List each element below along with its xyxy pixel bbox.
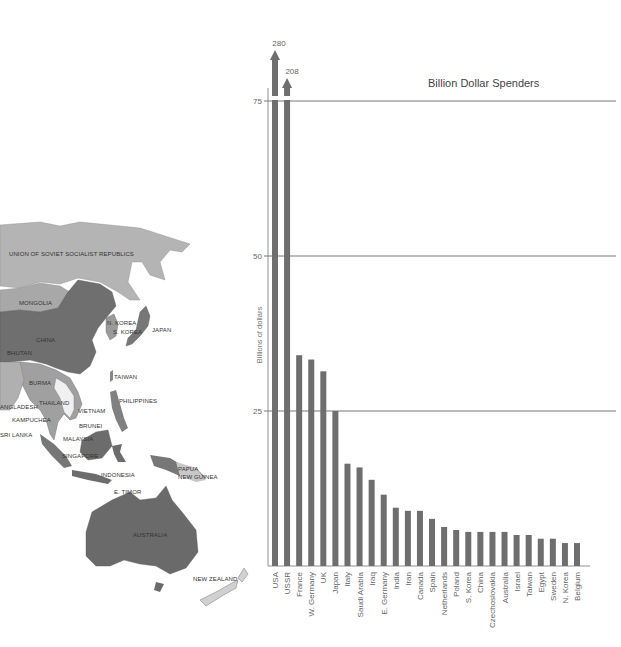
- x-tick-label: Japan: [331, 572, 340, 594]
- bar-czechoslovakia: [489, 532, 495, 566]
- bar-ussr: [284, 100, 290, 566]
- x-tick-label: S. Korea: [464, 571, 473, 603]
- x-tick-label: Iran: [404, 572, 413, 586]
- x-tick-label: Italy: [343, 572, 352, 587]
- arrow-up-icon: [270, 50, 280, 60]
- y-tick-label: 75: [253, 97, 262, 106]
- bar-s-korea: [465, 532, 471, 566]
- x-tick-label: Egypt: [537, 571, 546, 592]
- bar-belgium: [574, 543, 580, 566]
- x-tick-label: Poland: [452, 572, 461, 597]
- bar-italy: [344, 464, 350, 566]
- x-tick-label: Canada: [416, 571, 425, 600]
- bar-iran: [405, 511, 411, 566]
- bar-france: [296, 355, 302, 566]
- x-tick-label: W. Germany: [307, 572, 316, 616]
- x-tick-label: Saudi Arabia: [356, 571, 365, 617]
- bar-uk: [320, 371, 326, 566]
- x-tick-label: Netherlands: [440, 572, 449, 615]
- bar-china: [477, 532, 483, 566]
- x-tick-label: Sweden: [549, 572, 558, 601]
- x-tick-label: Czechoslovakia: [488, 571, 497, 628]
- bar-e-germany: [381, 495, 387, 566]
- x-tick-label: China: [476, 571, 485, 592]
- bar-japan: [332, 411, 338, 566]
- bar-poland: [453, 530, 459, 566]
- x-tick-label: USSR: [283, 572, 292, 594]
- bar-egypt: [538, 539, 544, 566]
- bar-usa: [272, 100, 278, 566]
- axis-break: [271, 96, 279, 99]
- x-tick-label: Spain: [428, 572, 437, 592]
- x-tick-label: Belgium: [573, 572, 582, 601]
- y-tick-label: 25: [253, 407, 262, 416]
- bar-saudi-arabia: [357, 467, 363, 566]
- x-tick-label: E. Germany: [380, 572, 389, 615]
- x-tick-label: Taiwan: [525, 572, 534, 597]
- bar-canada: [417, 511, 423, 566]
- x-tick-label: Australia: [501, 571, 510, 603]
- y-tick-label: 50: [253, 252, 262, 261]
- bar-n-korea: [562, 543, 568, 566]
- bar-chart: Billion Dollar Spenders Billions of doll…: [0, 0, 621, 647]
- axis-break: [283, 96, 291, 99]
- x-tick-label: Iraq: [368, 572, 377, 586]
- arrow-up-icon: [282, 78, 292, 88]
- chart-title: Billion Dollar Spenders: [428, 77, 540, 89]
- bar-india: [393, 508, 399, 566]
- x-tick-label: UK: [319, 571, 328, 583]
- x-tick-label: France: [295, 571, 304, 596]
- bar-iraq: [369, 480, 375, 566]
- bar-australia: [502, 532, 508, 566]
- bar-israel: [514, 535, 520, 566]
- bar-taiwan: [526, 535, 532, 566]
- y-axis-label: Billions of dollars: [255, 307, 264, 364]
- bar-sweden: [550, 539, 556, 566]
- bar-netherlands: [441, 527, 447, 566]
- bar-w-germany: [308, 360, 314, 566]
- overflow-value-label: 280: [272, 39, 286, 48]
- x-tick-label: India: [392, 571, 401, 589]
- bar-spain: [429, 519, 435, 566]
- x-tick-label: N. Korea: [561, 571, 570, 603]
- overflow-arrow-shaft: [272, 60, 278, 98]
- x-tick-label: USA: [271, 571, 280, 588]
- x-tick-label: Israel: [513, 572, 522, 592]
- overflow-value-label: 208: [285, 67, 299, 76]
